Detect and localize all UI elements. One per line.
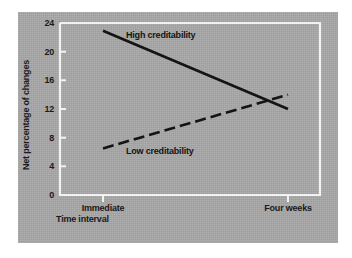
- series-annotation-high-creditability: High creditability: [126, 30, 195, 40]
- series-line-low-creditability: [103, 95, 288, 149]
- x-tick-label-four-weeks: Four weeks: [264, 203, 312, 213]
- y-tick-label-24: 24: [36, 18, 54, 28]
- x-tick-label-immediate: Immediate: [82, 203, 125, 213]
- y-tick-label-12: 12: [36, 104, 54, 114]
- axis-frame: [60, 23, 320, 195]
- series-line-high-creditability: [103, 31, 288, 109]
- y-tick-label-16: 16: [36, 75, 54, 85]
- y-axis-title: Net percentage of changes: [21, 60, 31, 170]
- y-tick-label-20: 20: [36, 47, 54, 57]
- figure-canvas: 0 4 8 12 16 20 24 Immediate Four weeks N…: [0, 0, 352, 258]
- y-tick-label-0: 0: [36, 190, 54, 200]
- series-annotation-low-creditability: Low creditability: [126, 146, 194, 156]
- y-tick-label-8: 8: [36, 133, 54, 143]
- y-tick-label-4: 4: [36, 161, 54, 171]
- x-axis-title: Time interval: [56, 214, 109, 224]
